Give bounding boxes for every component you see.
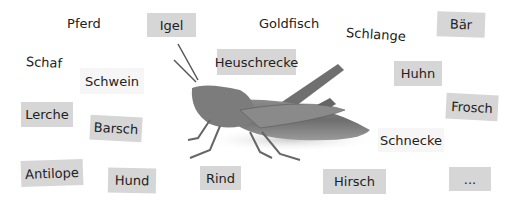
- word-text: Huhn: [401, 66, 436, 81]
- word-card-antilope: Antilope: [21, 159, 84, 187]
- word-text: Bär: [450, 17, 473, 33]
- word-card-baer: Bär: [437, 11, 486, 38]
- word-card-igel: Igel: [147, 13, 196, 37]
- word-text: Hund: [115, 173, 150, 189]
- word-card-schaf: Schaf: [21, 49, 66, 75]
- word-text: Hirsch: [334, 174, 375, 189]
- word-text: Rind: [206, 171, 235, 186]
- word-text: Pferd: [67, 16, 101, 31]
- word-text: Antilope: [25, 165, 79, 182]
- word-text: Schwein: [85, 74, 139, 89]
- word-text: Barsch: [93, 120, 138, 137]
- word-card-lerche: Lerche: [21, 102, 73, 127]
- word-card-frosch: Frosch: [445, 93, 498, 122]
- word-text: Schaf: [26, 54, 63, 71]
- word-card-hirsch: Hirsch: [323, 169, 386, 194]
- word-text: Igel: [160, 18, 184, 33]
- word-text: Frosch: [451, 98, 493, 115]
- word-text: Lerche: [25, 107, 68, 122]
- word-card-hund: Hund: [108, 168, 156, 194]
- word-card-schwein: Schwein: [80, 68, 144, 94]
- word-card-pferd: Pferd: [54, 10, 114, 36]
- grasshopper-icon: [170, 40, 390, 170]
- word-card-goldfisch: Goldfisch: [255, 11, 323, 35]
- word-text: Goldfisch: [259, 16, 319, 31]
- word-text: ...: [464, 172, 476, 187]
- word-card-more: ...: [449, 167, 491, 191]
- word-card-huhn: Huhn: [394, 61, 442, 86]
- word-card-barsch: Barsch: [89, 115, 142, 143]
